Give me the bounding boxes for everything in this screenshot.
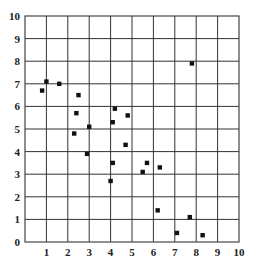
data-point-marker (76, 93, 80, 97)
data-point-marker (175, 231, 179, 235)
data-point-marker (141, 170, 145, 174)
data-point-marker (87, 125, 91, 129)
y-tick-label: 3 (15, 168, 21, 180)
x-tick-label: 6 (151, 246, 157, 258)
data-points (40, 61, 205, 237)
data-point-marker (126, 113, 130, 117)
data-point-marker (72, 131, 76, 135)
data-point-marker (85, 152, 89, 156)
y-tick-label: 2 (15, 191, 21, 203)
data-point-marker (155, 208, 159, 212)
y-axis-tick-labels: 012345678910 (9, 10, 21, 248)
y-tick-label: 10 (9, 10, 21, 22)
y-tick-label: 6 (15, 100, 21, 112)
data-point-marker (111, 120, 115, 124)
data-point-marker (188, 215, 192, 219)
y-tick-label: 5 (15, 123, 21, 135)
x-tick-label: 2 (65, 246, 71, 258)
x-tick-label: 5 (129, 246, 135, 258)
x-tick-label: 10 (234, 246, 246, 258)
data-point-marker (145, 161, 149, 165)
data-point-marker (111, 161, 115, 165)
y-tick-label: 0 (15, 236, 21, 248)
data-point-marker (57, 82, 61, 86)
data-point-marker (108, 179, 112, 183)
y-tick-label: 4 (15, 146, 21, 158)
x-tick-label: 9 (215, 246, 221, 258)
x-tick-label: 7 (172, 246, 178, 258)
grid-lines (25, 16, 239, 242)
x-tick-label: 3 (86, 246, 92, 258)
x-axis-tick-labels: 12345678910 (44, 246, 245, 258)
scatter-chart: 012345678910 12345678910 (0, 0, 253, 267)
y-tick-label: 1 (15, 213, 21, 225)
data-point-marker (44, 79, 48, 83)
data-point-marker (123, 143, 127, 147)
data-point-marker (190, 61, 194, 65)
data-point-marker (200, 233, 204, 237)
y-tick-label: 9 (15, 33, 21, 45)
x-tick-label: 4 (108, 246, 114, 258)
data-point-marker (40, 88, 44, 92)
x-tick-label: 8 (193, 246, 199, 258)
data-point-marker (74, 111, 78, 115)
x-tick-label: 1 (44, 246, 50, 258)
data-point-marker (158, 165, 162, 169)
y-tick-label: 8 (15, 55, 21, 67)
data-point-marker (113, 106, 117, 110)
y-tick-label: 7 (15, 78, 21, 90)
